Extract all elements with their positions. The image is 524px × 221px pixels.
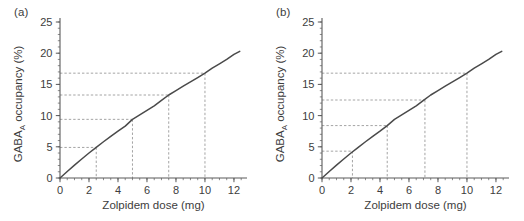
x-tick-label: 10 bbox=[461, 184, 473, 196]
x-axis-title: Zolpidem dose (mg) bbox=[364, 199, 466, 211]
y-axis-title-text: GABAA occupancy (%) bbox=[274, 46, 289, 163]
plot-a: 0246810120510152025Zolpidem dose (mg)GAB… bbox=[0, 0, 262, 221]
x-tick-label: 6 bbox=[144, 184, 150, 196]
y-axis-title-rest: occupancy (%) bbox=[12, 46, 24, 125]
x-tick-label: 4 bbox=[115, 184, 121, 196]
y-tick-label: 5 bbox=[46, 141, 52, 153]
y-axis-title-rest: occupancy (%) bbox=[274, 46, 286, 125]
y-tick-label: 0 bbox=[46, 172, 52, 184]
y-tick-label: 20 bbox=[302, 47, 314, 59]
y-tick-label: 15 bbox=[302, 78, 314, 90]
y-axis-title-main: GABA bbox=[274, 130, 286, 162]
y-tick-label: 25 bbox=[40, 16, 52, 28]
plot-b: 0246810120510152025Zolpidem dose (mg)GAB… bbox=[262, 0, 524, 221]
x-tick-label: 2 bbox=[86, 184, 92, 196]
y-tick-label: 10 bbox=[40, 110, 52, 122]
panel-b: (b) 0246810120510152025Zolpidem dose (mg… bbox=[262, 0, 524, 221]
y-axis-title: GABAA occupancy (%) bbox=[274, 46, 289, 163]
figure-container: (a) 0246810120510152025Zolpidem dose (mg… bbox=[0, 0, 524, 221]
data-curve bbox=[60, 51, 240, 178]
x-tick-label: 12 bbox=[490, 184, 502, 196]
x-tick-label: 10 bbox=[199, 184, 211, 196]
x-tick-label: 8 bbox=[173, 184, 179, 196]
y-tick-label: 5 bbox=[308, 141, 314, 153]
y-axis-title-main: GABA bbox=[12, 130, 24, 162]
y-tick-label: 15 bbox=[40, 78, 52, 90]
x-axis-title: Zolpidem dose (mg) bbox=[102, 199, 204, 211]
x-tick-label: 6 bbox=[406, 184, 412, 196]
x-tick-label: 2 bbox=[348, 184, 354, 196]
y-tick-label: 10 bbox=[302, 110, 314, 122]
y-tick-label: 0 bbox=[308, 172, 314, 184]
x-tick-label: 4 bbox=[377, 184, 383, 196]
x-tick-label: 0 bbox=[319, 184, 325, 196]
y-tick-label: 25 bbox=[302, 16, 314, 28]
data-curve bbox=[322, 51, 502, 178]
x-tick-label: 12 bbox=[228, 184, 240, 196]
x-tick-label: 8 bbox=[435, 184, 441, 196]
x-tick-label: 0 bbox=[57, 184, 63, 196]
panel-a: (a) 0246810120510152025Zolpidem dose (mg… bbox=[0, 0, 262, 221]
y-axis-title-text: GABAA occupancy (%) bbox=[12, 46, 27, 163]
y-tick-label: 20 bbox=[40, 47, 52, 59]
y-axis-title: GABAA occupancy (%) bbox=[12, 46, 27, 163]
